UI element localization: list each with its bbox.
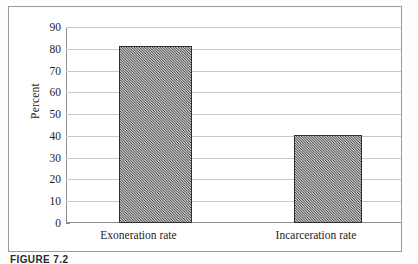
- y-axis-tick-labels: 90 80 70 60 50 40 30 20 10 0: [23, 27, 61, 223]
- y-tick-label: 20: [29, 174, 61, 186]
- y-tick-mark: [66, 223, 70, 224]
- figure-page: Percent 90 80 70 60 50 40 30 20 10 0: [0, 0, 418, 264]
- plot-area: [66, 27, 401, 223]
- y-tick-label: 30: [29, 153, 61, 165]
- gridline-50: [66, 114, 401, 115]
- figure-caption: FIGURE 7.2: [10, 254, 68, 264]
- y-tick-label: 60: [29, 87, 61, 99]
- gridline-60: [66, 92, 401, 93]
- y-tick-label: 40: [29, 131, 61, 143]
- gridline-70: [66, 71, 401, 72]
- y-tick-label: 80: [29, 44, 61, 56]
- y-tick-label: 90: [29, 22, 61, 34]
- y-tick-label: 0: [29, 218, 61, 230]
- y-tick-label: 10: [29, 196, 61, 208]
- x-category-label-exoneration: Exoneration rate: [66, 229, 211, 241]
- y-tick-label: 70: [29, 66, 61, 78]
- chart-frame: Percent 90 80 70 60 50 40 30 20 10 0: [8, 6, 402, 252]
- gridline-80: [66, 49, 401, 50]
- y-tick-label: 50: [29, 109, 61, 121]
- x-category-label-incarceration: Incarceration rate: [241, 229, 391, 241]
- bar-incarceration-rate: [294, 135, 362, 223]
- bar-exoneration-rate: [119, 46, 192, 224]
- gridline-90: [66, 27, 401, 28]
